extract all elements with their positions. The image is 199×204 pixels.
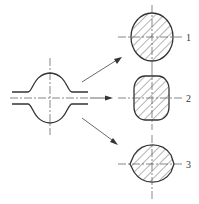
label-1: 1 bbox=[186, 32, 191, 43]
deformation-diagram: 1 2 3 bbox=[0, 0, 199, 204]
bulged-tube bbox=[10, 58, 90, 135]
section-1: 1 bbox=[118, 5, 191, 68]
section-2: 2 bbox=[118, 68, 191, 130]
section-3: 3 bbox=[118, 135, 191, 200]
label-3: 3 bbox=[186, 159, 191, 170]
arrows bbox=[82, 57, 122, 145]
label-2: 2 bbox=[186, 93, 191, 104]
